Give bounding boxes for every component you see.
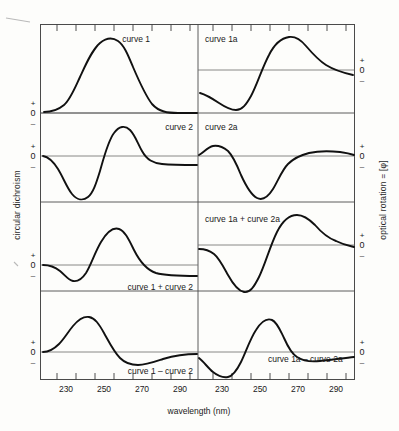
xtick-label-left-250: 250 (97, 384, 111, 394)
sign-minus-label: – (31, 119, 36, 128)
curve-curve-1a-plus-2a (199, 215, 354, 292)
sign-plus-label: + (360, 142, 365, 151)
curve-curve-2 (43, 127, 197, 200)
sign-plus-label: + (360, 56, 365, 65)
y-axis-title-right: optical rotation = [φ] (378, 160, 388, 240)
scan-smudge-left (14, 262, 18, 266)
top-ticks (57, 25, 346, 32)
sign-plus-label: + (360, 231, 365, 240)
sign-minus-label: – (360, 358, 365, 367)
xtick-label-left-290: 290 (173, 384, 187, 394)
curve-curve-1a-minus-2a (199, 319, 354, 377)
right-axis-markers-curve-2a: + 0 – (359, 142, 364, 171)
panel-label-curve-1: curve 1 (122, 34, 150, 44)
zero-label: 0 (30, 108, 35, 118)
curve-curve-1 (44, 39, 197, 113)
curve-curve-1-plus-2 (43, 229, 197, 282)
bottom-ticks (57, 373, 346, 380)
panel-label-curve-1a-minus-2a: curve 1a – curve 2a (268, 354, 343, 364)
left-axis-markers-curve-1: + 0 – (30, 99, 35, 128)
xtick-label-left-230: 230 (59, 384, 73, 394)
panel-label-curve-2a: curve 2a (205, 122, 238, 132)
xtick-label-right-250: 250 (253, 384, 267, 394)
zero-label: 0 (359, 347, 364, 357)
sign-plus-label: + (31, 99, 36, 108)
panel-label-curve-1a: curve 1a (205, 34, 238, 44)
sign-plus-label: + (31, 251, 36, 260)
cd-ord-figure: + 0 – + 0 – + 0 – + 0 – + 0 – + 0 – (0, 0, 399, 431)
scan-smudge-top-left (6, 18, 30, 22)
sign-minus-label: – (360, 162, 365, 171)
sign-plus-label: + (31, 142, 36, 151)
sign-minus-label: – (360, 251, 365, 260)
curve-curve-1-minus-2 (43, 317, 197, 365)
sign-plus-label: + (31, 338, 36, 347)
xtick-label-left-270: 270 (135, 384, 149, 394)
left-axis-markers-curve-2: + 0 – (30, 142, 35, 171)
panel-label-curve-1-plus-2: curve 1 + curve 2 (128, 282, 194, 292)
zero-label: 0 (359, 151, 364, 161)
panel-label-curve-2: curve 2 (165, 122, 193, 132)
y-axis-title-left: circular dichroism (12, 170, 22, 240)
xtick-label-right-230: 230 (215, 384, 229, 394)
x-axis-title: wavelength (nm) (167, 406, 231, 416)
curve-curve-2a (199, 146, 354, 199)
curve-curve-1a (200, 37, 353, 110)
right-axis-markers-curve-1a-minus-2a: + 0 – (359, 338, 364, 367)
sign-minus-label: – (31, 271, 36, 280)
panel-label-curve-1-minus-2: curve 1 – curve 2 (128, 366, 193, 376)
left-axis-markers-curve-1-plus-2: + 0 – (30, 251, 35, 280)
right-axis-markers-curve-1a-plus-2a: + 0 – (359, 231, 364, 260)
zero-label: 0 (30, 347, 35, 357)
zero-label: 0 (359, 240, 364, 250)
sign-minus-label: – (31, 358, 36, 367)
xtick-label-right-290: 290 (329, 384, 343, 394)
panel-label-curve-1a-plus-2a: curve 1a + curve 2a (205, 214, 280, 224)
sign-minus-label: – (31, 162, 36, 171)
xtick-label-right-270: 270 (291, 384, 305, 394)
zero-label: 0 (359, 65, 364, 75)
zero-label: 0 (30, 151, 35, 161)
right-axis-markers-curve-1a: + 0 – (359, 56, 364, 85)
sign-plus-label: + (360, 338, 365, 347)
zero-label: 0 (30, 260, 35, 270)
left-axis-markers-curve-1-minus-2: + 0 – (30, 338, 35, 367)
sign-minus-label: – (360, 76, 365, 85)
